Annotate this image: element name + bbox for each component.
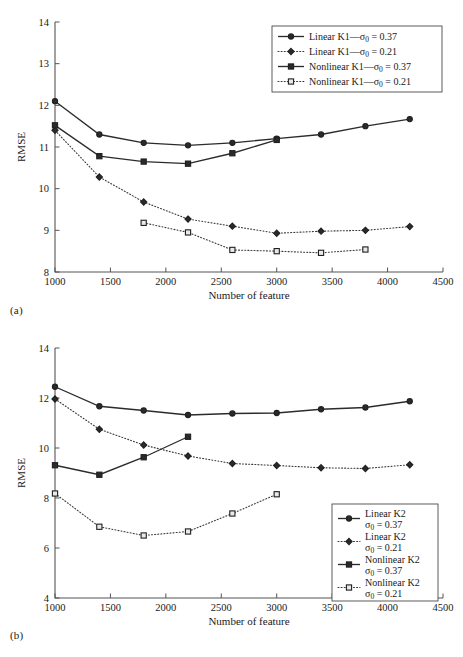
- data-point: [229, 460, 235, 466]
- data-point: [407, 399, 412, 404]
- legend-label-line1: Linear K2: [365, 508, 406, 519]
- y-tick-label: 11: [39, 142, 49, 153]
- series-0: [52, 384, 412, 417]
- series-line: [55, 437, 188, 475]
- legend-marker: [288, 64, 293, 69]
- data-point: [141, 159, 146, 164]
- data-point: [97, 472, 102, 477]
- data-point: [230, 151, 235, 156]
- data-point: [318, 465, 324, 471]
- series-line: [55, 399, 410, 469]
- data-point: [141, 408, 146, 413]
- data-point: [141, 533, 146, 538]
- panel-caption-a: (a): [10, 304, 23, 316]
- chart-panel-a: 1000150020002500300035004000450089101112…: [0, 0, 463, 330]
- data-point: [363, 124, 368, 129]
- data-point: [362, 227, 368, 233]
- x-tick-label: 1500: [100, 602, 121, 613]
- data-point: [141, 220, 146, 225]
- x-tick-label: 2000: [155, 602, 176, 613]
- y-tick-label: 14: [39, 17, 50, 28]
- data-point: [407, 223, 413, 229]
- data-point: [97, 132, 102, 137]
- series-0: [52, 99, 412, 148]
- legend-marker: [346, 585, 351, 590]
- data-point: [363, 247, 368, 252]
- y-tick-label: 10: [39, 183, 50, 194]
- y-tick-label: 12: [39, 100, 50, 111]
- x-tick-label: 3000: [266, 276, 287, 287]
- data-point: [407, 116, 412, 121]
- x-tick-label: 3500: [322, 276, 343, 287]
- data-point: [52, 99, 57, 104]
- y-tick-label: 12: [39, 393, 50, 404]
- data-point: [96, 426, 102, 432]
- data-point: [230, 511, 235, 516]
- data-point: [185, 161, 190, 166]
- chart-legend[interactable]: Linear K1—σ0 = 0.37Linear K1—σ0 = 0.21No…: [272, 26, 442, 92]
- y-tick-label: 6: [44, 543, 49, 554]
- data-point: [52, 491, 57, 496]
- data-point: [185, 216, 191, 222]
- y-axis-title: RMSE: [15, 132, 27, 162]
- legend-label-line1: Nonlinear K2: [365, 577, 420, 588]
- series-line: [55, 494, 277, 536]
- data-point: [407, 462, 413, 468]
- series-line: [144, 223, 366, 253]
- data-point: [274, 230, 280, 236]
- data-point: [141, 140, 146, 145]
- legend-marker: [288, 34, 293, 39]
- data-point: [141, 199, 147, 205]
- data-point: [96, 174, 102, 180]
- data-point: [318, 250, 323, 255]
- x-tick-label: 1500: [100, 276, 121, 287]
- data-point: [318, 132, 323, 137]
- y-tick-label: 13: [39, 58, 50, 69]
- y-tick-label: 9: [44, 225, 49, 236]
- data-point: [274, 410, 279, 415]
- panel-caption-b: (b): [10, 629, 23, 641]
- chart-a-svg: 1000150020002500300035004000450089101112…: [0, 0, 463, 330]
- x-tick-label: 4500: [433, 276, 454, 287]
- legend-marker: [288, 79, 293, 84]
- x-tick-label: 4500: [433, 602, 454, 613]
- x-tick-label: 2500: [211, 602, 232, 613]
- data-point: [230, 140, 235, 145]
- y-tick-label: 4: [44, 593, 50, 604]
- data-point: [185, 143, 190, 148]
- x-tick-label: 3500: [322, 602, 343, 613]
- data-point: [185, 529, 190, 534]
- x-axis-title: Number of feature: [208, 289, 289, 301]
- data-point: [97, 524, 102, 529]
- y-tick-label: 14: [39, 343, 50, 354]
- series-2: [52, 434, 190, 477]
- x-tick-label: 2500: [211, 276, 232, 287]
- data-point: [274, 492, 279, 497]
- data-point: [52, 396, 58, 402]
- x-tick-label: 2000: [155, 276, 176, 287]
- y-tick-label: 8: [44, 267, 49, 278]
- figure-root: 1000150020002500300035004000450089101112…: [0, 0, 463, 657]
- y-axis-title: RMSE: [15, 458, 27, 488]
- data-point: [52, 384, 57, 389]
- chart-legend[interactable]: Linear K2σ0 = 0.37Linear K2σ0 = 0.21Nonl…: [332, 504, 438, 601]
- series-line: [55, 101, 410, 145]
- legend-label-line1: Linear K2: [365, 531, 406, 542]
- data-point: [274, 249, 279, 254]
- data-point: [362, 465, 368, 471]
- data-point: [185, 434, 190, 439]
- data-point: [318, 407, 323, 412]
- data-point: [230, 411, 235, 416]
- data-point: [97, 154, 102, 159]
- y-tick-label: 10: [39, 443, 50, 454]
- data-point: [318, 228, 324, 234]
- x-tick-label: 3000: [266, 602, 287, 613]
- legend-label-line1: Nonlinear K2: [365, 554, 420, 565]
- series-3: [141, 220, 368, 255]
- x-tick-label: 4000: [377, 602, 398, 613]
- legend-marker: [346, 516, 351, 521]
- data-point: [185, 453, 191, 459]
- data-point: [230, 247, 235, 252]
- data-point: [185, 230, 190, 235]
- data-point: [229, 223, 235, 229]
